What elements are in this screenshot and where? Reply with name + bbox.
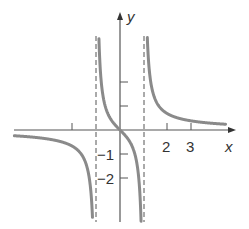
curve-left-branch (14, 136, 92, 218)
curve-right-branch (147, 38, 225, 125)
y-tick-label-neg1: −1 (97, 147, 114, 162)
chart-canvas (0, 0, 249, 229)
x-axis-arrow-icon (228, 127, 236, 133)
x-tick-label-2: 2 (162, 139, 170, 154)
x-axis-label: x (225, 139, 233, 154)
x-tick-label-3: 3 (186, 139, 194, 154)
y-tick-label-neg2: −2 (97, 171, 114, 186)
y-axis-label: y (127, 9, 135, 24)
y-axis-arrow-icon (117, 12, 123, 20)
